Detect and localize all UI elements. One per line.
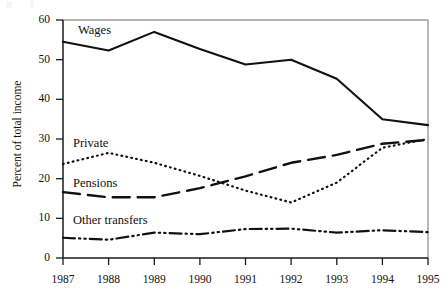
x-tick-label-1991: 1991	[224, 274, 268, 286]
y-tick-label-40: 40	[24, 93, 50, 105]
y-tick-label-0: 0	[24, 252, 50, 264]
x-tick-label-1987: 1987	[41, 274, 85, 286]
line-chart-canvas	[0, 0, 447, 303]
series-line-wages	[63, 32, 428, 125]
series-label-wages: Wages	[78, 24, 111, 37]
x-tick-label-1995: 1995	[406, 274, 447, 286]
y-axis-ticks	[56, 20, 63, 258]
x-tick-label-1988: 1988	[87, 274, 131, 286]
series-label-other-transfers: Other transfers	[73, 214, 148, 227]
y-tick-label-20: 20	[24, 173, 50, 185]
x-tick-label-1994: 1994	[360, 274, 404, 286]
y-tick-label-60: 60	[24, 14, 50, 26]
y-axis-title: Percent of total income	[11, 59, 23, 209]
y-tick-label-30: 30	[24, 133, 50, 145]
chart-figure: 60 50 40 30 20 10 0 1987 1988 1989 1990 …	[0, 0, 447, 303]
series-label-pensions: Pensions	[73, 177, 117, 190]
series-line-private	[63, 139, 428, 202]
x-axis-ticks	[63, 258, 428, 265]
x-tick-label-1989: 1989	[132, 274, 176, 286]
series-lines	[63, 32, 428, 240]
x-tick-label-1990: 1990	[178, 274, 222, 286]
series-line-other-transfers	[63, 229, 428, 240]
series-label-private: Private	[73, 137, 108, 150]
y-tick-label-10: 10	[24, 212, 50, 224]
y-tick-label-50: 50	[24, 54, 50, 66]
x-tick-label-1993: 1993	[315, 274, 359, 286]
series-line-pensions	[63, 140, 428, 198]
x-tick-label-1992: 1992	[269, 274, 313, 286]
